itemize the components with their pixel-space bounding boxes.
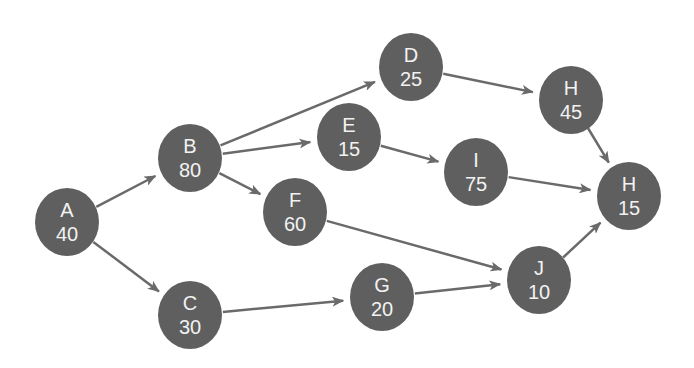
node-b: B80 xyxy=(158,124,222,192)
node-value: 80 xyxy=(179,158,201,182)
node-label: E xyxy=(342,113,355,137)
edge-e-i xyxy=(381,146,439,162)
edge-h1-h2 xyxy=(588,128,609,162)
edge-f-j xyxy=(327,221,502,270)
node-value: 10 xyxy=(528,280,550,304)
node-d: D25 xyxy=(379,33,443,101)
node-j: J10 xyxy=(507,246,571,314)
edge-b-f xyxy=(219,173,260,194)
edge-i-h2 xyxy=(509,177,591,190)
edge-d-h1 xyxy=(443,74,532,92)
node-label: H xyxy=(622,172,636,196)
node-label: A xyxy=(60,198,73,222)
node-label: H xyxy=(564,76,578,100)
edge-g-j xyxy=(415,284,500,293)
node-label: I xyxy=(473,148,479,172)
node-a: A40 xyxy=(35,188,99,256)
node-value: 15 xyxy=(618,196,640,220)
network-diagram: A40 B80 C30 D25 E15 F60 G20 H45 I75 H15 … xyxy=(0,0,694,368)
node-label: B xyxy=(183,134,196,158)
node-label: C xyxy=(183,291,197,315)
node-label: G xyxy=(374,273,390,297)
node-i: I75 xyxy=(444,138,508,206)
edge-a-b xyxy=(96,176,155,207)
node-f: F60 xyxy=(263,178,327,246)
node-value: 45 xyxy=(560,100,582,124)
edge-a-c xyxy=(93,242,159,292)
node-h-45: H45 xyxy=(539,66,603,134)
node-label: F xyxy=(289,188,301,212)
node-value: 15 xyxy=(338,137,360,161)
node-value: 40 xyxy=(56,222,78,246)
edge-j-h2 xyxy=(563,223,600,258)
node-e: E15 xyxy=(317,103,381,171)
node-h-15: H15 xyxy=(597,162,661,230)
node-c: C30 xyxy=(158,281,222,349)
edges-layer xyxy=(0,0,694,368)
edge-c-g xyxy=(223,301,343,312)
node-label: J xyxy=(534,256,544,280)
node-value: 75 xyxy=(465,172,487,196)
node-value: 25 xyxy=(400,67,422,91)
edge-b-e xyxy=(223,142,311,154)
node-value: 60 xyxy=(284,212,306,236)
node-value: 20 xyxy=(371,297,393,321)
node-label: D xyxy=(404,43,418,67)
node-g: G20 xyxy=(350,263,414,331)
node-value: 30 xyxy=(179,315,201,339)
